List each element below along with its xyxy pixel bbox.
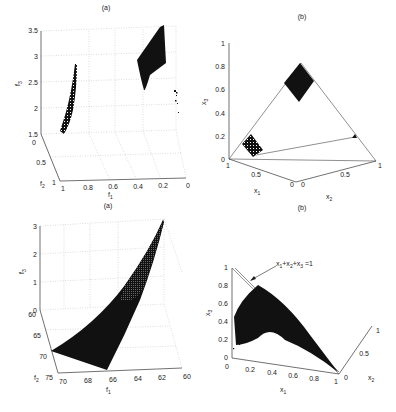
tick-label: 0 [224, 354, 228, 361]
tick-label: 0.4 [218, 318, 228, 325]
tick-label: 0.6 [288, 372, 298, 379]
y-axis-label: x2 [326, 193, 333, 202]
tick-label: 0 [186, 182, 190, 189]
tick-label: 0.2 [245, 366, 255, 373]
tick-label: 0.5 [36, 159, 46, 166]
tick-label: 0.2 [218, 336, 228, 343]
panel-top-left: (a) 3.5 3 2.5 2 1.5 f3 [14, 4, 190, 200]
x-axis [229, 159, 296, 182]
tick-label: 2 [33, 251, 37, 258]
x-axis-label: f1 [106, 386, 111, 395]
tick-label: 68 [84, 377, 92, 384]
tick-label: 1 [378, 162, 382, 169]
tick-label: 3 [34, 53, 38, 60]
tick-label: 66 [109, 376, 117, 383]
tick-label: 1 [221, 40, 225, 47]
y-axis-label: f2 [34, 374, 39, 383]
tick-label: 0.6 [215, 86, 225, 93]
tick-label: 0.8 [83, 184, 93, 191]
tick-label: 0 [32, 139, 36, 146]
z-axis-label: x3 [200, 99, 209, 106]
tick-label: 70 [39, 353, 47, 360]
figure: (a) 3.5 3 2.5 2 1.5 f3 [0, 0, 396, 412]
tick-label: 64 [134, 375, 142, 382]
cluster-left-arc [60, 64, 77, 134]
tick-label: 0.8 [309, 375, 319, 382]
tick-label: 0 [301, 181, 305, 188]
tick-label: 0.6 [108, 183, 118, 190]
tick-label: 0 [221, 156, 225, 163]
tick-label: 0.8 [218, 282, 228, 289]
annotation-label: x1+x2+x3 =1 [276, 260, 313, 269]
tick-label: 65 [33, 332, 41, 339]
tick-label: 0.2 [158, 182, 168, 189]
tick-label: 3 [33, 223, 37, 230]
tick-label: 1 [226, 162, 230, 169]
tick-label: 0.2 [215, 133, 225, 140]
tick-label: 0.6 [218, 300, 228, 307]
tick-label: 0.5 [251, 171, 261, 178]
panel-title: (b) [298, 204, 307, 212]
cluster-curved-band [234, 285, 338, 372]
tick-label: 3.5 [28, 27, 38, 34]
y-axis [296, 161, 376, 182]
pareto-surface-sparse [120, 220, 164, 301]
cluster-sparse-points [174, 90, 179, 113]
z-axis-label: x3 [204, 310, 213, 317]
tick-label: 1 [52, 179, 56, 186]
tick-label: 0.5 [359, 350, 369, 357]
cluster-small-triangle [352, 134, 357, 138]
tick-label: 1 [224, 264, 228, 271]
tick-label: 0 [225, 363, 229, 370]
z-axis-label: f3 [18, 269, 27, 274]
x-axis [58, 368, 182, 373]
y-axis [41, 134, 60, 181]
tick-label: 60 [28, 311, 36, 318]
tick-label: 1 [376, 327, 380, 334]
cluster-dense-patch [137, 25, 166, 90]
tick-label: 0.4 [215, 110, 225, 117]
tick-label: 1 [334, 378, 338, 385]
tick-label: 70 [59, 378, 67, 385]
tick-label: 75 [45, 374, 53, 381]
x-axis-label: x1 [254, 187, 261, 196]
panel-bottom-left: (a) 3 2 1 0 f3 60 65 70 75 f2 70 68 66 [18, 202, 191, 395]
tick-label: 1.5 [28, 131, 38, 138]
tick-label: 0 [290, 181, 294, 188]
panel-title: (b) [298, 13, 307, 21]
tick-label: 60 [183, 373, 191, 380]
z-axis-label: f3 [14, 81, 23, 86]
tick-label: 0.8 [215, 63, 225, 70]
y-axis [40, 310, 58, 373]
arrow-head-icon [250, 276, 256, 281]
tick-label: 2.5 [28, 79, 38, 86]
x-axis-label: x1 [280, 386, 287, 395]
tick-label: 2 [34, 105, 38, 112]
panel-top-right: (b) 1 0.8 0.6 0.4 0.2 0 x3 1 0.5 0 x1 0 … [200, 13, 382, 202]
tick-label: 0 [344, 374, 348, 381]
panel-title: (a) [102, 4, 111, 12]
panel-title: (a) [104, 202, 113, 210]
tick-label: 0.4 [133, 183, 143, 190]
x-axis [60, 178, 186, 181]
x-axis-label: f1 [108, 191, 113, 200]
tick-label: 1 [61, 185, 65, 192]
tick-label: 0.5 [340, 171, 350, 178]
pareto-surface-dense [51, 220, 164, 370]
tick-label: 62 [158, 374, 166, 381]
panel-bottom-right: (b) 1 0.8 0.6 0.4 0.2 0 x3 0 0.2 0.4 0.6… [204, 204, 380, 395]
y-axis-label: x2 [368, 374, 375, 383]
y-axis-label: f2 [40, 180, 45, 189]
tick-label: 1 [33, 279, 37, 286]
tick-label: 0.4 [267, 369, 277, 376]
cluster-top-diamond [284, 63, 314, 102]
